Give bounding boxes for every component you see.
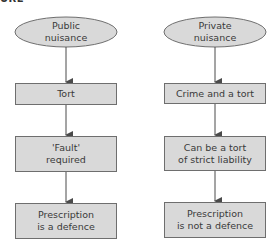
prescription-not-defence-label: Prescription is not a defence: [164, 202, 266, 238]
strict-liability-label: Can be a tort of strict liability: [164, 136, 266, 171]
tort-label: Tort: [15, 83, 117, 105]
private-nuisance-label: Private nuisance: [164, 17, 266, 47]
fault-required-label: 'Fault' required: [15, 136, 117, 172]
crime-and-tort-label: Crime and a tort: [164, 83, 266, 104]
public-nuisance-label: Public nuisance: [15, 17, 117, 47]
prescription-defence-label: Prescription is a defence: [15, 203, 117, 239]
